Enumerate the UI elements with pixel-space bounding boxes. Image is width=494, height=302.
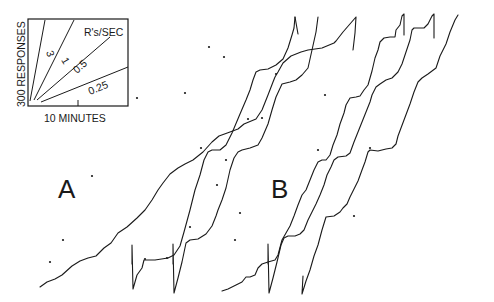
event-marker: [216, 184, 218, 186]
trace-a-1: [40, 17, 356, 287]
event-marker: [225, 159, 227, 161]
rate-scale-inset: R's/SEC 3 1 0.5 0.25 10 MINUTES 300 RESP…: [15, 19, 128, 124]
event-marker: [136, 97, 138, 99]
cumulative-record-figure: R's/SEC 3 1 0.5 0.25 10 MINUTES 300 RESP…: [0, 0, 494, 302]
rate-line-0.25: [41, 67, 128, 102]
event-marker: [144, 258, 146, 260]
event-marker: [317, 149, 319, 151]
trace-b-2: [268, 14, 434, 293]
trace-a-2-hook: [295, 17, 298, 34]
event-marker: [324, 94, 326, 96]
event-markers: [49, 46, 371, 263]
inset-x-label: 10 MINUTES: [44, 112, 106, 124]
rate-line-3: [30, 20, 45, 101]
event-marker: [200, 147, 202, 149]
event-marker: [62, 239, 64, 241]
event-marker: [261, 117, 263, 119]
event-marker: [369, 147, 371, 149]
event-marker: [247, 118, 249, 120]
inset-y-label: 300 RESPONSES: [15, 21, 27, 107]
trace-b-3: [302, 15, 458, 294]
rate-label-1: 1: [59, 55, 72, 66]
event-marker: [223, 56, 225, 58]
event-marker: [91, 175, 93, 177]
panel-label-b: B: [271, 174, 288, 204]
cumulative-traces: [40, 14, 458, 294]
trace-b-1: [222, 14, 404, 291]
event-marker: [239, 212, 241, 214]
event-marker: [234, 239, 236, 241]
rate-label-0.25: 0.25: [86, 78, 110, 97]
event-marker: [184, 92, 186, 94]
event-marker: [166, 257, 168, 259]
event-marker: [49, 261, 51, 263]
panel-label-a: A: [58, 174, 76, 204]
event-marker: [353, 215, 355, 217]
event-marker: [189, 226, 191, 228]
event-marker: [208, 46, 210, 48]
event-marker: [275, 73, 277, 75]
trace-a-2: [132, 17, 295, 289]
rate-title: R's/SEC: [84, 26, 124, 38]
trace-a-3: [173, 17, 318, 293]
